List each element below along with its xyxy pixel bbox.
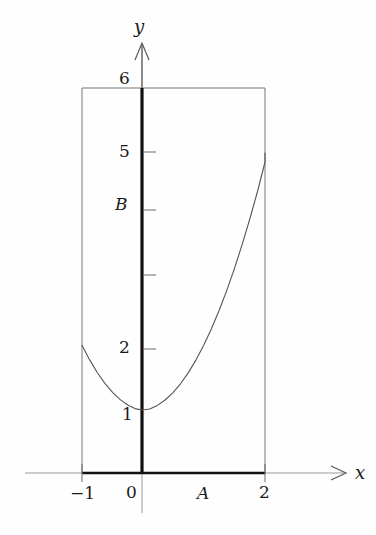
y-tick-label-1: 1 — [122, 406, 133, 423]
x-tick-label-2: 2 — [259, 484, 270, 501]
y-axis-label: y — [134, 18, 144, 36]
x-axis-label: x — [355, 464, 365, 482]
y-tick-label-5: 5 — [119, 143, 130, 160]
y-tick-label-2: 2 — [119, 339, 130, 356]
graph-figure: 6 5 B 2 1 y x −1 0 A 2 — [0, 0, 376, 535]
region-label-a: A — [197, 485, 209, 502]
parabola-curve — [82, 153, 265, 410]
y-tick-label-6: 6 — [119, 70, 130, 87]
y-tick-label-b: B — [115, 196, 128, 213]
origin-label: 0 — [126, 484, 137, 501]
x-tick-label-minus1: −1 — [70, 485, 95, 502]
coordinate-plot-svg — [0, 0, 376, 535]
